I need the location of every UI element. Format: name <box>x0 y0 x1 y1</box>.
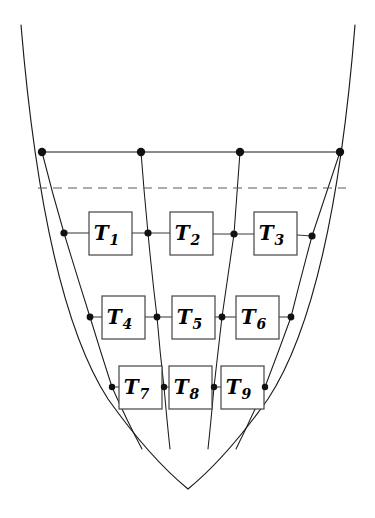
subarea-box-t1[interactable]: T1 <box>89 212 132 255</box>
node-dot-row2-right <box>288 314 295 321</box>
level-lines-group <box>38 152 346 188</box>
node-dot-top-right <box>336 148 344 156</box>
node-dot-row1-right <box>308 232 315 239</box>
node-dot-row3-right <box>262 384 268 390</box>
node-dot-row1-left <box>60 229 67 236</box>
node-dot-row1-mid-left <box>144 229 151 236</box>
diagram-canvas: T1T2T3T4T5T6T7T8T9 <box>0 0 375 518</box>
node-dot-row2-left <box>87 314 94 321</box>
node-dot-row3-mid-right <box>211 384 217 390</box>
subarea-box-t7[interactable]: T7 <box>119 366 162 409</box>
node-dot-top-mid-right <box>236 148 244 156</box>
subarea-box-t6[interactable]: T6 <box>236 296 279 339</box>
subarea-box-t2[interactable]: T2 <box>170 212 213 255</box>
parabolic-cross-section-diagram: T1T2T3T4T5T6T7T8T9 <box>0 0 375 518</box>
node-dot-group <box>38 148 344 390</box>
node-dot-row2-mid-right <box>219 314 226 321</box>
node-dot-top-left <box>38 148 46 156</box>
node-dot-row3-mid-left <box>161 384 167 390</box>
node-dot-row3-left <box>109 384 115 390</box>
node-dot-row1-mid-right <box>230 230 237 237</box>
node-dot-row2-mid-left <box>154 314 161 321</box>
node-dot-top-mid-left <box>137 148 145 156</box>
subarea-box-t8[interactable]: T8 <box>169 366 212 409</box>
subarea-box-t5[interactable]: T5 <box>172 296 215 339</box>
subarea-box-group: T1T2T3T4T5T6T7T8T9 <box>89 212 297 409</box>
subarea-box-t4[interactable]: T4 <box>102 296 145 339</box>
subarea-box-t9[interactable]: T9 <box>221 366 264 409</box>
subarea-box-t3[interactable]: T3 <box>254 212 297 255</box>
